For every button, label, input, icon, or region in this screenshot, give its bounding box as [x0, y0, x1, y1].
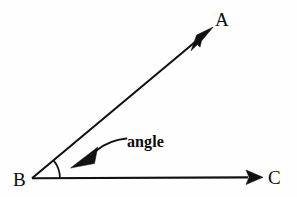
- ray-bc-shaft: [32, 177, 248, 178]
- label-point-c: C: [268, 167, 281, 188]
- label-point-a: A: [215, 9, 229, 30]
- label-point-b: B: [13, 169, 26, 190]
- angle-diagram-svg: A B C angle: [0, 0, 297, 197]
- angle-diagram-canvas: A B C angle: [0, 0, 297, 197]
- label-angle-annotation: angle: [127, 133, 164, 151]
